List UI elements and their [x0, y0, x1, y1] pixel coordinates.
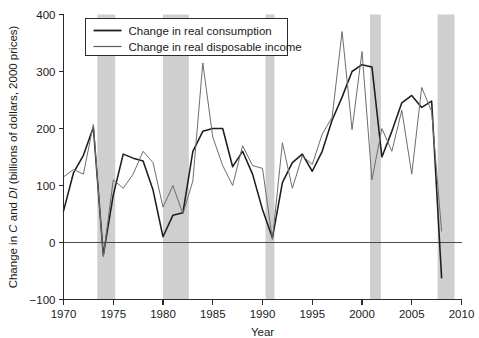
y-axis-title-text: Change in C and DI (billions of dollars,…	[7, 25, 19, 288]
y-tick-label: 100	[36, 180, 55, 192]
series-line-consumption	[64, 65, 442, 278]
legend-label-consumption: Change in real consumption	[129, 25, 272, 37]
x-tick-label: 1985	[200, 308, 226, 320]
y-tick-label: −100	[30, 294, 56, 306]
y-axis-title: Change in C and DI (billions of dollars,…	[7, 25, 19, 288]
series-line-disposable-income	[64, 32, 442, 257]
x-tick-label: 2010	[449, 308, 475, 320]
x-tick-label: 1980	[150, 308, 176, 320]
x-tick-label: 1975	[100, 308, 126, 320]
series-lines-group	[64, 32, 442, 278]
x-axis-title-text: Year	[251, 326, 274, 338]
legend-label-disposable-income: Change in real disposable income	[129, 41, 302, 53]
y-tick-label: 400	[36, 9, 55, 21]
chart-figure: −1000100200300400 1970197519801985199019…	[0, 0, 479, 338]
recession-band	[97, 15, 115, 300]
line-chart: −1000100200300400 1970197519801985199019…	[0, 0, 479, 338]
y-tick-label: 0	[49, 237, 55, 249]
y-axis-ticks: −1000100200300400	[30, 9, 64, 306]
y-tick-label: 200	[36, 123, 55, 135]
x-tick-label: 1990	[250, 308, 276, 320]
x-axis-title: Year	[251, 326, 274, 338]
y-tick-label: 300	[36, 66, 55, 78]
recession-bands-group	[97, 15, 454, 300]
recession-band	[163, 15, 189, 300]
recession-band	[265, 15, 274, 300]
x-tick-label: 1995	[299, 308, 325, 320]
x-axis-ticks: 197019751980198519901995200020052010	[51, 300, 475, 320]
chart-legend: Change in real consumptionChange in real…	[86, 19, 302, 56]
x-tick-label: 2005	[399, 308, 425, 320]
x-tick-label: 1970	[51, 308, 77, 320]
recession-band	[370, 15, 381, 300]
x-tick-label: 2000	[349, 308, 375, 320]
